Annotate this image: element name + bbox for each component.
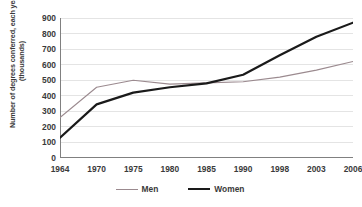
x-tick-label: 1975 (124, 164, 143, 174)
x-tick-label: 1998 (270, 164, 289, 174)
x-tick-label: 2006 (344, 164, 362, 174)
x-tick-label: 1970 (87, 164, 106, 174)
x-axis-tick-labels: 196419701975198019851990199820032006 (60, 164, 353, 178)
series-line-men (60, 62, 353, 118)
x-tick-label: 1985 (197, 164, 216, 174)
x-tick-label: 1980 (161, 164, 180, 174)
x-tick-label: 1990 (234, 164, 253, 174)
legend-label: Men (142, 184, 159, 194)
y-tick-label: 800 (26, 30, 56, 38)
axis-lines (60, 18, 353, 158)
y-tick-label: 900 (26, 14, 56, 22)
legend-label: Women (214, 184, 244, 194)
plot-area (60, 18, 353, 158)
y-tick-label: 600 (26, 61, 56, 69)
y-tick-label: 500 (26, 76, 56, 84)
legend-line-swatch-icon (116, 189, 138, 190)
y-tick-label: 200 (26, 123, 56, 131)
y-tick-label: 100 (26, 138, 56, 146)
y-tick-label: 700 (26, 45, 56, 53)
legend-line-swatch-icon (188, 188, 210, 190)
legend-item-women[interactable]: Women (188, 184, 244, 194)
gridlines (60, 18, 353, 158)
y-tick-label: 300 (26, 107, 56, 115)
plot-svg (60, 18, 353, 158)
y-tick-label: 0 (26, 154, 56, 162)
x-tick-label: 1964 (51, 164, 70, 174)
chart-legend: MenWomen (0, 184, 360, 194)
legend-item-men[interactable]: Men (116, 184, 159, 194)
y-axis-tick-labels: 9008007006005004003002001000 (22, 18, 56, 158)
y-tick-label: 400 (26, 92, 56, 100)
x-tick-label: 2003 (307, 164, 326, 174)
